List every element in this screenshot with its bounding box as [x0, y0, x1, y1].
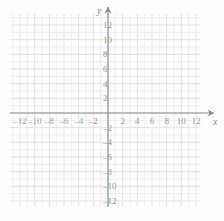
x-axis-label: x [213, 117, 217, 127]
x-tick-label: 10 [177, 117, 186, 126]
axes [10, 7, 214, 207]
coordinate-plane-figure: –12–10–8–6–4–22468101212108642–2–4–6–8–1… [0, 0, 224, 221]
x-tick-label: 8 [164, 117, 169, 126]
x-tick-label: 2 [120, 117, 125, 126]
x-tick-label: –10 [28, 117, 42, 126]
x-tick-label: –6 [60, 117, 69, 126]
x-tick-label: 4 [135, 117, 140, 126]
x-tick-label: –2 [89, 117, 98, 126]
x-tick-label: –8 [45, 117, 54, 126]
x-tick-label: –4 [74, 117, 83, 126]
x-tick-label: 6 [150, 117, 155, 126]
y-axis-label: y [97, 6, 101, 16]
x-tick-label: 12 [191, 117, 200, 126]
x-tick-label: –12 [13, 117, 27, 126]
